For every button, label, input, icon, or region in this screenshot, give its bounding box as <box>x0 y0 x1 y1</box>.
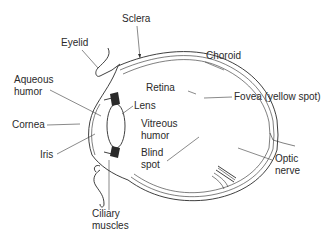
label-choroid: Choroid <box>206 50 241 62</box>
label-optic-1: Optic <box>275 153 298 165</box>
label-optic-2: nerve <box>275 165 300 177</box>
label-iris: Iris <box>40 149 53 161</box>
label-aqueous-2: humor <box>14 86 42 98</box>
label-sclera: Sclera <box>122 13 150 25</box>
cornea-shape <box>89 66 128 180</box>
label-vitreous-2: humor <box>141 130 169 142</box>
label-lens: Lens <box>134 100 156 112</box>
label-cornea: Cornea <box>12 119 45 131</box>
label-aqueous-1: Aqueous <box>14 74 53 86</box>
label-eyelid: Eyelid <box>61 37 88 49</box>
label-retina: Retina <box>146 82 175 94</box>
lens-shape <box>107 104 125 148</box>
label-ciliary-2: muscles <box>92 220 129 232</box>
label-vitreous-1: Vitreous <box>141 118 178 130</box>
label-blind-1: Blind <box>141 147 163 159</box>
label-blind-2: spot <box>141 159 160 171</box>
label-fovea: Fovea (yellow spot) <box>234 91 321 103</box>
label-ciliary-1: Ciliary <box>92 208 120 220</box>
